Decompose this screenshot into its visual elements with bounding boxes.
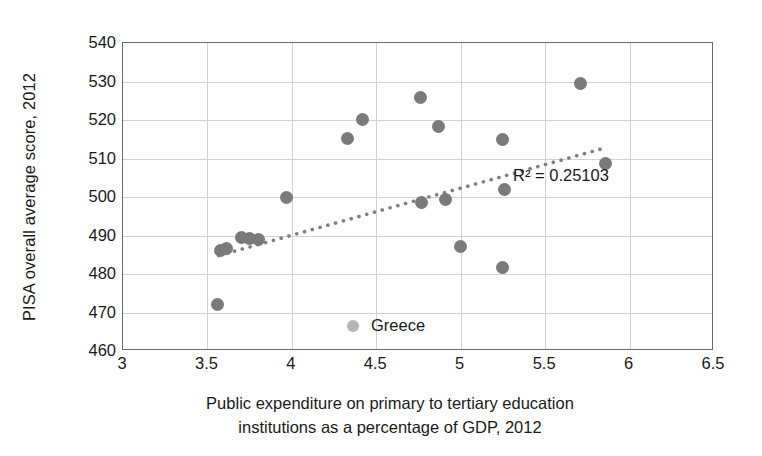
x-tick-label: 6 <box>599 354 659 373</box>
y-axis-title: PISA overall average score, 2012 <box>12 42 46 352</box>
x-axis-title: Public expenditure on primary to tertiar… <box>60 392 720 440</box>
chart-legend: Greece <box>347 316 425 335</box>
gridline-horizontal <box>123 313 712 314</box>
gridline-horizontal <box>123 120 712 121</box>
y-tick-label: 500 <box>64 187 116 206</box>
x-tick-label: 6.5 <box>683 354 743 373</box>
x-axis-title-line-2: institutions as a percentage of GDP, 201… <box>60 416 720 440</box>
data-point <box>439 193 452 206</box>
y-tick-label: 480 <box>64 264 116 283</box>
plot-area <box>122 42 713 350</box>
gridline-vertical <box>461 43 462 349</box>
data-point <box>356 113 369 126</box>
data-point <box>414 91 427 104</box>
data-point <box>432 120 445 133</box>
y-tick-label: 470 <box>64 302 116 321</box>
x-axis-tick-labels: 33.544.555.566.5 <box>122 354 713 380</box>
x-tick-label: 3.5 <box>176 354 236 373</box>
y-tick-label: 490 <box>64 225 116 244</box>
gridline-horizontal <box>123 236 712 237</box>
y-tick-label: 540 <box>64 33 116 52</box>
data-point <box>220 242 233 255</box>
gridline-horizontal <box>123 159 712 160</box>
data-point <box>341 132 354 145</box>
legend-marker-greece <box>347 320 359 332</box>
y-axis-tick-labels: 460470480490500510520530540 <box>58 42 116 350</box>
x-tick-label: 4.5 <box>345 354 405 373</box>
x-axis-title-line-1: Public expenditure on primary to tertiar… <box>60 392 720 416</box>
gridline-vertical <box>376 43 377 349</box>
gridline-vertical <box>630 43 631 349</box>
x-tick-label: 5 <box>430 354 490 373</box>
y-tick-label: 520 <box>64 110 116 129</box>
data-point <box>280 191 293 204</box>
gridline-horizontal <box>123 82 712 83</box>
r-squared-annotation: R² = 0.25103 <box>513 166 609 185</box>
legend-label-greece: Greece <box>371 316 425 335</box>
y-tick-label: 530 <box>64 71 116 90</box>
x-tick-label: 3 <box>92 354 152 373</box>
data-point <box>454 240 467 253</box>
gridline-horizontal <box>123 274 712 275</box>
data-point <box>252 233 265 246</box>
scatter-chart-figure: PISA overall average score, 2012 4604704… <box>0 0 762 456</box>
y-tick-label: 510 <box>64 148 116 167</box>
x-tick-label: 4 <box>261 354 321 373</box>
gridline-vertical <box>545 43 546 349</box>
gridline-vertical <box>207 43 208 349</box>
x-tick-label: 5.5 <box>514 354 574 373</box>
